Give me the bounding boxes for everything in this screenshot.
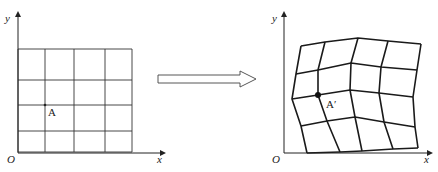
right-origin-label: O <box>272 153 280 165</box>
deformed-grid-row <box>301 117 415 127</box>
point-a-label: A <box>48 106 56 118</box>
deformed-grid <box>292 38 421 153</box>
right-y-label: y <box>271 12 277 24</box>
deformation-diagram: A O x y A′ O x y <box>0 0 438 172</box>
point-a-prime-label: A′ <box>326 98 336 110</box>
left-panel: A O x y <box>4 12 163 165</box>
hollow-arrow-icon <box>158 71 256 87</box>
left-origin-label: O <box>7 153 15 165</box>
deformed-grid-column <box>292 46 307 153</box>
deformed-grid-column <box>413 44 421 148</box>
deformed-grid-column <box>318 42 340 152</box>
right-x-label: x <box>423 153 429 165</box>
point-a-prime-dot <box>315 92 321 98</box>
left-x-label: x <box>156 153 162 165</box>
left-y-label: y <box>4 12 10 24</box>
point-a-dot <box>44 104 47 107</box>
transform-arrow <box>158 71 256 87</box>
deformed-grid-column <box>350 38 362 151</box>
right-panel: A′ O x y <box>271 12 430 165</box>
original-grid <box>18 49 132 152</box>
deformed-grid-row <box>292 90 413 99</box>
deformed-grid-row <box>301 38 421 46</box>
deformed-grid-row <box>296 63 417 74</box>
